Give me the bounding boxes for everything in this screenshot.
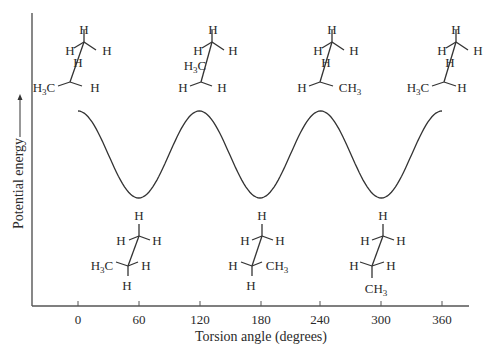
newman-360-deg: H H H H H3C H [407, 22, 483, 97]
svg-text:H: H [178, 80, 187, 95]
svg-text:H3C: H3C [91, 258, 114, 275]
tick-label-0: 0 [75, 312, 82, 327]
svg-text:H: H [116, 233, 125, 248]
svg-text:H: H [349, 43, 358, 58]
tick-label-360: 360 [432, 312, 452, 327]
y-axis-title: Potential energy [11, 138, 26, 229]
svg-text:H3C: H3C [407, 80, 430, 97]
x-axis-title: Torsion angle (degrees) [195, 329, 327, 345]
svg-text:H: H [122, 278, 131, 293]
svg-text:H: H [360, 233, 369, 248]
svg-text:H: H [297, 80, 306, 95]
svg-text:H: H [275, 233, 284, 248]
newman-60-deg: H H H H3C H H [91, 208, 162, 293]
torsion-energy-diagram: 0 60 120 180 240 300 360 Torsion angle (… [0, 0, 487, 353]
newman-240-deg: H H H H H CH3 [297, 22, 361, 97]
newman-0-deg: H H H H H3C H [33, 22, 112, 97]
svg-text:H: H [208, 22, 217, 37]
svg-text:H: H [228, 258, 237, 273]
svg-text:H: H [457, 80, 466, 95]
svg-text:H: H [134, 208, 143, 223]
svg-text:H: H [73, 55, 82, 70]
svg-text:H: H [193, 43, 202, 58]
energy-curve [78, 111, 442, 198]
tick-label-300: 300 [371, 312, 391, 327]
svg-text:H: H [90, 80, 99, 95]
x-tick-labels: 0 60 120 180 240 300 360 [75, 312, 452, 327]
svg-text:CH3: CH3 [339, 80, 362, 97]
svg-text:H: H [246, 278, 255, 293]
svg-text:H: H [327, 22, 336, 37]
svg-text:CH3: CH3 [365, 281, 388, 298]
arrow-head-icon [18, 94, 23, 100]
svg-text:H: H [378, 208, 387, 223]
newman-120-deg: H H H H3C H H [178, 22, 237, 95]
svg-text:H: H [386, 258, 395, 273]
svg-text:H: H [141, 258, 150, 273]
svg-text:H: H [240, 233, 249, 248]
y-axis-title-group: Potential energy [11, 94, 26, 229]
tick-label-60: 60 [133, 312, 146, 327]
svg-text:H: H [257, 208, 266, 223]
svg-text:H: H [79, 22, 88, 37]
tick-label-180: 180 [251, 312, 271, 327]
newman-300-deg: H H H H H CH3 [349, 208, 405, 298]
svg-text:H: H [445, 55, 454, 70]
tick-label-240: 240 [310, 312, 330, 327]
svg-text:H: H [321, 55, 330, 70]
x-ticks [78, 301, 442, 306]
svg-text:H3C: H3C [184, 58, 207, 75]
svg-text:H3C: H3C [33, 80, 56, 97]
tick-label-120: 120 [190, 312, 210, 327]
svg-text:H: H [102, 43, 111, 58]
svg-text:CH3: CH3 [266, 258, 289, 275]
svg-text:H: H [349, 258, 358, 273]
svg-text:H: H [152, 233, 161, 248]
svg-text:H: H [217, 80, 226, 95]
svg-text:H: H [396, 233, 405, 248]
newman-180-deg: H H H H CH3 H [228, 208, 288, 293]
svg-text:H: H [451, 22, 460, 37]
svg-text:H: H [228, 43, 237, 58]
svg-text:H: H [473, 43, 482, 58]
